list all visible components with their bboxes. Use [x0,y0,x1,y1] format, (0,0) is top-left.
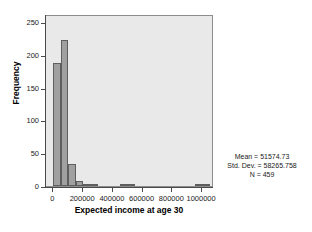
histogram-bar [91,184,98,186]
stat-mean: Mean = 51574.73 [214,152,310,161]
y-axis-tick [41,154,45,155]
y-axis-title: Frequency [11,43,21,123]
x-axis-tick [142,188,143,192]
y-axis-tick [41,89,45,90]
plot-area [45,15,213,187]
y-axis-tick-label: 200 [3,52,39,60]
x-axis-line [45,187,213,188]
y-axis-line [45,15,46,187]
histogram-bar [76,181,83,186]
x-axis-tick [201,188,202,192]
histogram-bar [120,184,127,186]
y-axis-tick-label: 0 [3,183,39,191]
y-axis-tick [41,121,45,122]
histogram-bar [53,63,60,186]
histogram-bar [83,184,90,186]
y-axis-tick-label: 250 [3,19,39,27]
x-axis-tick [82,188,83,192]
y-axis-tick-label: 100 [3,117,39,125]
histogram-bar [61,40,68,186]
histogram-figure: 050100150200250 Frequency Expected incom… [0,0,312,232]
stat-stddev: Std. Dev. = 58265.758 [214,161,310,170]
y-axis-tick-label: 150 [3,85,39,93]
x-axis-tick [171,188,172,192]
histogram-bar [68,164,75,186]
x-axis-title: Expected income at age 30 [45,205,213,215]
x-axis-tick [52,188,53,192]
histogram-bar [195,184,202,186]
stat-n: N = 459 [214,170,310,179]
y-axis-tick [41,56,45,57]
histogram-bar [128,184,135,186]
x-axis-tick [112,188,113,192]
histogram-bar [202,184,209,186]
y-axis-tick [41,23,45,24]
statistics-annotation: Mean = 51574.73 Std. Dev. = 58265.758 N … [214,152,310,179]
bars-layer [46,16,212,186]
x-axis-tick-label: 1000000 [171,194,231,203]
y-axis-tick-label: 50 [3,150,39,158]
